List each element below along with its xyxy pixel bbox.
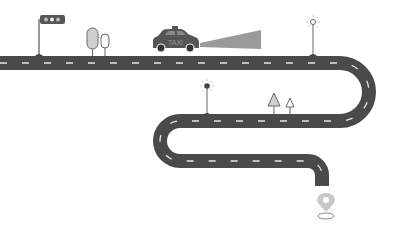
winding-road xyxy=(0,63,369,186)
taxi-label: TAXI xyxy=(168,39,183,46)
location-pin-icon xyxy=(317,193,334,219)
route-scene: TAXI xyxy=(0,0,393,237)
trees-icon xyxy=(87,28,109,56)
traffic-light-icon xyxy=(35,15,65,56)
street-lamp-icon xyxy=(200,79,214,115)
street-lamp-icon xyxy=(306,15,320,56)
road-route-illustration: TAXI xyxy=(0,0,393,237)
trees-icon xyxy=(268,93,294,114)
headlight-beam-icon xyxy=(200,30,261,49)
taxi-icon: TAXI xyxy=(153,26,199,52)
